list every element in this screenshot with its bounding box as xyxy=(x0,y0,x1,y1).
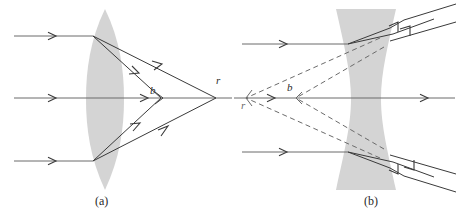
panel-b xyxy=(234,4,456,192)
arrowhead-a-ref-bottom-marginal xyxy=(130,123,140,131)
optics-diagram-svg xyxy=(0,0,459,217)
panel-a xyxy=(14,9,232,190)
label-virtual-near-focus-b: b xyxy=(287,81,293,93)
caption-panel-b: (b) xyxy=(364,194,378,209)
optics-figure: b r r b (a) (b) xyxy=(0,0,459,217)
caption-panel-a: (a) xyxy=(95,194,108,209)
label-virtual-focal-point-b: r xyxy=(241,99,245,111)
label-focal-point-a: r xyxy=(216,74,220,86)
refracted-ray-b-top-extend xyxy=(404,4,456,20)
refracted-ray-b-bottom-extend xyxy=(404,176,456,192)
diverging-lens-shape xyxy=(336,9,396,190)
label-near-focus-a: b xyxy=(150,84,156,96)
